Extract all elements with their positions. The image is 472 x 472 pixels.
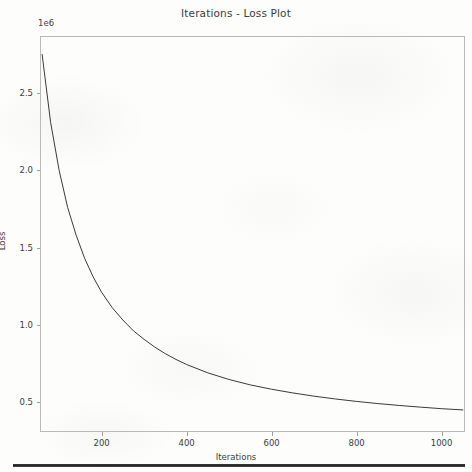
- loss-curve-plot: [40, 36, 465, 432]
- y-tick-mark: [37, 93, 41, 94]
- x-axis-title: Iterations: [0, 452, 472, 462]
- y-tick-label: 1.0: [8, 320, 33, 330]
- x-tick-label: 600: [263, 438, 279, 448]
- y-tick-mark: [37, 402, 41, 403]
- loss-curve-line: [42, 55, 463, 410]
- x-tick-label: 1000: [431, 438, 453, 448]
- bottom-rule-divider: [13, 464, 465, 467]
- y-tick-mark: [37, 325, 41, 326]
- x-tick-label: 800: [348, 438, 364, 448]
- x-tick-label: 200: [93, 438, 109, 448]
- y-tick-label: 1.5: [8, 243, 33, 253]
- x-tick-mark: [187, 432, 188, 436]
- x-tick-mark: [102, 432, 103, 436]
- x-tick-mark: [442, 432, 443, 436]
- x-tick-label: 400: [178, 438, 194, 448]
- x-tick-mark: [272, 432, 273, 436]
- y-tick-mark: [37, 170, 41, 171]
- x-tick-mark: [357, 432, 358, 436]
- y-axis-offset-label: 1e6: [38, 18, 54, 28]
- y-tick-label: 2.5: [8, 88, 33, 98]
- y-tick-label: 2.0: [8, 165, 33, 175]
- y-tick-label: 0.5: [8, 397, 33, 407]
- y-tick-mark: [37, 248, 41, 249]
- chart-title: Iterations - Loss Plot: [0, 7, 472, 19]
- y-axis-title: Loss: [0, 232, 7, 251]
- chart-figure: Iterations - Loss Plot 1e6 0.51.01.52.02…: [0, 0, 472, 472]
